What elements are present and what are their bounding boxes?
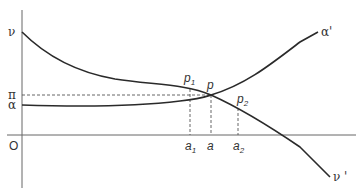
a2-label: a2 xyxy=(233,139,245,155)
a-label: a xyxy=(207,139,214,153)
a1-label: a1 xyxy=(185,139,196,155)
p2-label: p2 xyxy=(236,92,249,108)
nu-prime-label: ν ' xyxy=(333,170,347,184)
p-label: p xyxy=(206,78,214,92)
alpha-prime-label: α' xyxy=(321,25,332,39)
diagram-canvas: ν π α O α' ν ' p1 p p2 a1 a a2 xyxy=(0,0,362,196)
origin-label: O xyxy=(9,139,18,153)
p1-label: p1 xyxy=(183,71,195,87)
nu-label: ν xyxy=(8,25,15,39)
alpha-label: α xyxy=(8,98,16,112)
alpha-curve xyxy=(22,32,318,106)
